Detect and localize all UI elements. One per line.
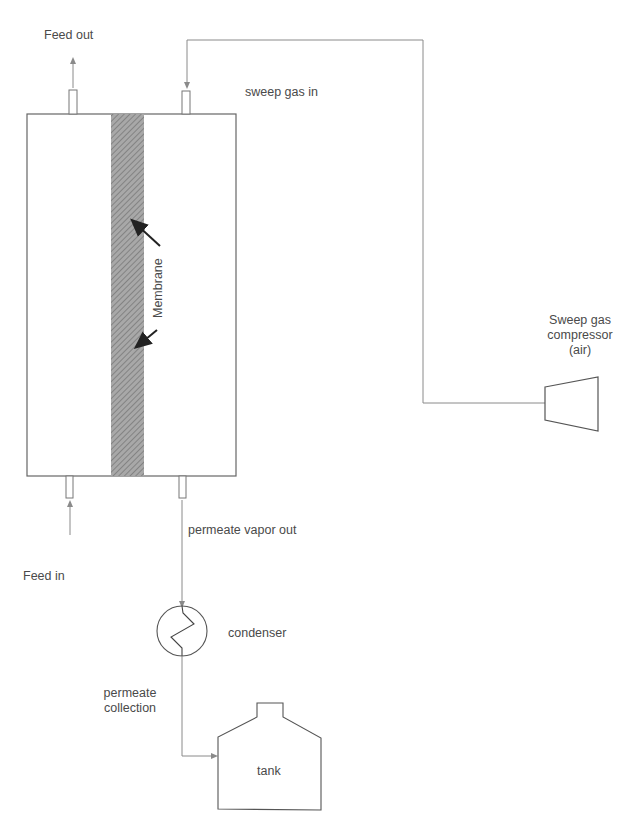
sweep-gas-in-nozzle: [182, 91, 190, 114]
compressor-label-line2: compressor: [530, 328, 627, 343]
compressor-label: Sweep gas compressor (air): [530, 313, 627, 358]
membrane-label: Membrane: [151, 258, 166, 318]
feed-out-nozzle: [69, 90, 77, 114]
feed-out-label: Feed out: [44, 28, 93, 43]
feed-in-nozzle: [66, 476, 73, 498]
permeate-out-nozzle: [179, 476, 186, 498]
tank-label: tank: [257, 764, 281, 779]
compressor-label-line1: Sweep gas: [530, 313, 627, 328]
permeate-collection-line: [182, 656, 215, 756]
sweep-gas-compressor: [545, 377, 598, 431]
permeate-vapor-out-label: permeate vapor out: [188, 523, 296, 538]
feed-in-label: Feed in: [23, 569, 65, 584]
compressor-label-line3: (air): [530, 343, 627, 358]
tank: [218, 703, 321, 810]
condenser-label: condenser: [228, 626, 286, 641]
membrane-band: [111, 114, 144, 476]
permeate-collection-line2: collection: [90, 701, 170, 716]
permeate-collection-label: permeate collection: [90, 686, 170, 716]
permeate-collection-line1: permeate: [90, 686, 170, 701]
sweep-gas-line: [187, 40, 545, 403]
sweep-gas-in-label: sweep gas in: [245, 85, 318, 100]
